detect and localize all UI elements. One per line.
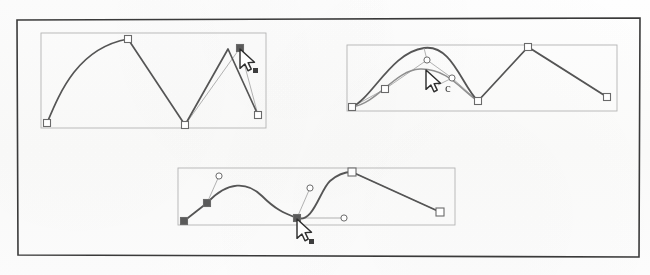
node-peak[interactable] bbox=[348, 168, 356, 176]
pointer-cursor[interactable] bbox=[297, 219, 312, 241]
handle-mid-right[interactable] bbox=[341, 215, 347, 221]
node-end[interactable] bbox=[255, 112, 262, 119]
panel-1-main-path[interactable] bbox=[47, 39, 258, 125]
pointer-cursor[interactable] bbox=[240, 49, 255, 71]
node-valley[interactable] bbox=[475, 98, 482, 105]
outer-frame-border bbox=[17, 18, 640, 257]
drag-arc-mark: c bbox=[445, 80, 451, 95]
node-start[interactable] bbox=[44, 120, 51, 127]
figure-root: c bbox=[0, 0, 650, 275]
node-valley[interactable] bbox=[182, 122, 189, 129]
panel-3-guide-line-0 bbox=[207, 176, 219, 203]
node-peak[interactable] bbox=[525, 44, 532, 51]
outer-frame bbox=[17, 18, 640, 257]
cursor-badge-icon bbox=[253, 68, 258, 73]
handle-left-upper[interactable] bbox=[216, 173, 222, 179]
panel-1 bbox=[41, 33, 266, 129]
cursor-badge-icon bbox=[309, 239, 314, 244]
handle-left[interactable] bbox=[424, 57, 430, 63]
panel-2-guide-line-1 bbox=[385, 60, 427, 89]
handle-mid-upper[interactable] bbox=[307, 185, 313, 191]
node-mid-left[interactable] bbox=[382, 86, 389, 93]
figure-canvas: c bbox=[0, 0, 650, 275]
panel-3-guide-line-1 bbox=[297, 188, 310, 218]
panel-1-guide-line-0 bbox=[185, 48, 240, 125]
node-start[interactable] bbox=[181, 218, 188, 225]
node-peak[interactable] bbox=[125, 36, 132, 43]
node-start[interactable] bbox=[349, 104, 356, 111]
node-end[interactable] bbox=[604, 94, 611, 101]
panel-3 bbox=[178, 168, 455, 244]
pointer-cursor[interactable] bbox=[426, 70, 441, 92]
panel-1-bounding-box[interactable] bbox=[41, 33, 266, 128]
node-end[interactable] bbox=[436, 208, 444, 216]
panel-3-main-path[interactable] bbox=[184, 172, 440, 221]
panel-2: c bbox=[347, 44, 617, 112]
node-corner[interactable] bbox=[204, 200, 211, 207]
